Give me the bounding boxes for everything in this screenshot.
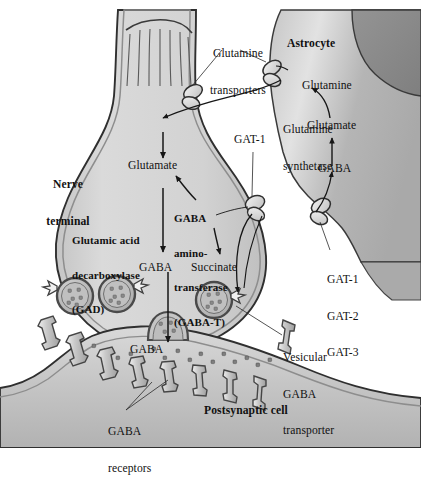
label-line: GABA bbox=[108, 426, 151, 438]
label-glutamine-astrocyte: Glutamine bbox=[302, 80, 352, 92]
label-line: transporters bbox=[196, 85, 280, 97]
gaba-receptor bbox=[38, 316, 60, 350]
label-line: Nerve bbox=[40, 179, 96, 191]
label-line: Vesicular bbox=[283, 352, 334, 364]
label-gaba-cleft: GABA bbox=[130, 344, 163, 356]
label-vesicular-gaba-transporter: Vesicular GABA transporter bbox=[283, 328, 334, 462]
label-gaba-receptors: GABA receptors bbox=[108, 402, 151, 479]
label-line: GABA bbox=[283, 389, 334, 401]
label-gaba-astrocyte: GABA bbox=[318, 163, 351, 175]
label-gat1-cleft: GAT-1 bbox=[234, 134, 266, 146]
label-line: GAT-1 bbox=[327, 274, 359, 286]
label-line: (GAD) bbox=[72, 304, 140, 316]
label-line: GAT-2 bbox=[327, 311, 359, 323]
label-gad: Glutamic acid decarboxylase (GAD) bbox=[72, 212, 140, 339]
label-postsynaptic-cell: Postsynaptic cell bbox=[204, 405, 288, 417]
label-glutamate-astrocyte: Glutamate bbox=[307, 120, 356, 132]
label-gaba-cytosol: GABA bbox=[139, 262, 172, 274]
vesicular-gaba-transporter-icon bbox=[43, 281, 57, 295]
label-glutamine-transporters: Glutamine transporters bbox=[196, 24, 280, 121]
label-line: decarboxylase bbox=[72, 270, 140, 282]
label-line: transferase bbox=[174, 282, 228, 294]
label-line: receptors bbox=[108, 463, 151, 475]
label-line: (GABA-T) bbox=[174, 317, 228, 329]
label-line: amino- bbox=[174, 248, 228, 260]
label-astrocyte: Astrocyte bbox=[287, 38, 335, 50]
label-line: Glutamine bbox=[196, 48, 280, 60]
label-line: GABA bbox=[174, 213, 228, 225]
label-glutamine-synthetase: Glutamine synthetase bbox=[283, 100, 333, 197]
label-glutamate-terminal: Glutamate bbox=[128, 160, 177, 172]
label-line: Glutamic acid bbox=[72, 235, 140, 247]
label-line: transporter bbox=[283, 425, 334, 437]
label-succinate: Succinate bbox=[191, 262, 237, 274]
